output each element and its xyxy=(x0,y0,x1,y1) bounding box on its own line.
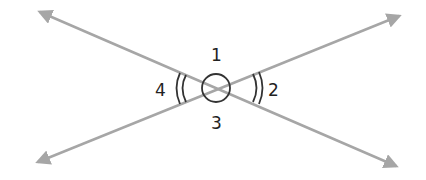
angle-label-2: 2 xyxy=(268,82,279,99)
angle-mark-4-outer xyxy=(177,73,181,104)
angle-mark-2-outer xyxy=(259,72,263,104)
line-b xyxy=(38,16,399,162)
lines-canvas xyxy=(0,0,426,180)
angle-mark-4-inner xyxy=(183,75,187,102)
angle-label-3: 3 xyxy=(211,115,222,132)
angle-label-4: 4 xyxy=(155,82,166,99)
vertical-angles-diagram: 1 2 3 4 xyxy=(0,0,426,180)
angle-mark-2-inner xyxy=(253,74,257,102)
angle-label-1: 1 xyxy=(211,47,222,64)
